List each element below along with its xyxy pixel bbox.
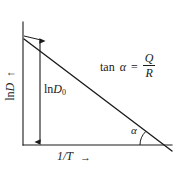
intercept-tick bbox=[24, 36, 41, 40]
angle-arc bbox=[140, 132, 146, 145]
x-axis-label-group: 1/T → bbox=[57, 149, 91, 164]
slope-fraction: Q R bbox=[143, 52, 156, 79]
angle-alpha-label: α bbox=[131, 125, 137, 136]
tangent-function-label: tan bbox=[100, 61, 115, 73]
ln-d0-subscript: 0 bbox=[62, 88, 66, 97]
y-axis-label-prefix: ln bbox=[3, 91, 17, 100]
y-axis-label-group: lnD ↑ bbox=[2, 64, 18, 108]
x-axis-direction-arrow-icon: → bbox=[80, 151, 91, 163]
ln-d0-prefix: ln bbox=[44, 82, 53, 96]
y-axis-label: lnD bbox=[3, 83, 18, 101]
y-axis-direction-arrow-icon: ↑ bbox=[4, 71, 16, 77]
equation-angle-symbol: α bbox=[118, 61, 126, 73]
equals-sign: = bbox=[129, 61, 140, 73]
ln-d0-label: lnD0 bbox=[44, 83, 66, 95]
ln-d0-symbol: D bbox=[53, 82, 62, 96]
x-axis-label: 1/T bbox=[57, 149, 73, 164]
plot-canvas bbox=[0, 0, 176, 171]
y-axis-label-symbol: D bbox=[3, 83, 17, 92]
arrhenius-plot-figure: lnD ↑ 1/T → lnD0 tan α = Q R α bbox=[0, 0, 176, 171]
fraction-denominator: R bbox=[143, 66, 154, 79]
slope-equation: tan α = Q R bbox=[100, 53, 155, 80]
fraction-numerator: Q bbox=[143, 52, 156, 65]
